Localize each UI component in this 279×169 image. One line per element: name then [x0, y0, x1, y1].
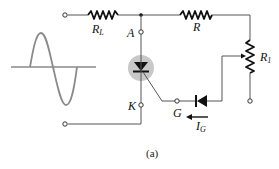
- cathode-label: K: [128, 100, 136, 112]
- input-terminal-top: [63, 13, 67, 17]
- circuit-drawing: [0, 0, 279, 169]
- figure-caption: (a): [146, 148, 158, 159]
- input-terminal-bottom: [63, 122, 67, 126]
- cathode-terminal: [139, 103, 143, 107]
- resistor-label-main: R: [193, 20, 200, 34]
- diode-icon: [196, 95, 222, 107]
- anode-terminal: [139, 30, 143, 34]
- anode-label: A: [127, 27, 134, 39]
- potentiometer-icon: [246, 40, 254, 73]
- scr-icon: [128, 55, 154, 81]
- potentiometer-label: R1: [260, 51, 271, 65]
- potentiometer-label-sub: 1: [267, 56, 271, 65]
- potentiometer-terminal: [248, 99, 252, 103]
- gate-current-label-sub: G: [200, 125, 206, 134]
- potentiometer-wiper: [222, 54, 246, 102]
- gate-current-label: IG: [196, 120, 206, 134]
- ac-source-waveform-icon: [11, 33, 96, 105]
- gate-terminal: [175, 99, 179, 103]
- resistor-icon: [180, 11, 212, 19]
- scr-circuit-diagram: RL R R1 A K G IG (a): [0, 0, 279, 169]
- load-resistor-label: RL: [92, 23, 104, 37]
- resistor-label: R: [193, 21, 200, 33]
- load-resistor-label-sub: L: [99, 28, 103, 37]
- load-resistor-icon: [88, 11, 118, 19]
- gate-label: G: [173, 107, 182, 119]
